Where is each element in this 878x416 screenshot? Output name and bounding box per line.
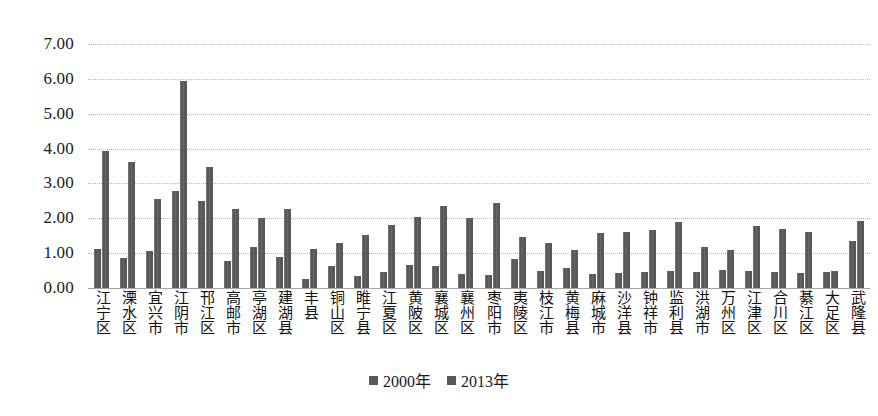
bar [120, 258, 127, 288]
y-tick-label: 4.00 [43, 139, 74, 159]
legend-item[interactable]: 2000年 [369, 368, 431, 392]
gridline-0 [88, 288, 870, 289]
bar-group [172, 44, 187, 288]
legend-label: 2013年 [461, 368, 509, 392]
bar-group [276, 44, 291, 288]
bar [849, 241, 856, 288]
x-tick-label: 枝江市 [536, 290, 552, 335]
y-axis: 0.001.002.003.004.005.006.007.00 [0, 44, 84, 288]
x-tick-label: 江津区 [745, 290, 761, 335]
bar [458, 274, 465, 288]
bar-group [511, 44, 526, 288]
bar [154, 199, 161, 288]
bar [232, 209, 239, 288]
bar-group [380, 44, 395, 288]
bar [745, 271, 752, 288]
bar [414, 217, 421, 288]
x-tick-label: 建湖县 [276, 290, 292, 335]
legend-label: 2000年 [383, 368, 431, 392]
bar-group [224, 44, 239, 288]
x-tick-label: 亭湖区 [249, 290, 265, 335]
legend-item[interactable]: 2013年 [447, 368, 509, 392]
legend-swatch-icon [447, 376, 456, 385]
bar-group [589, 44, 604, 288]
bar-group [250, 44, 265, 288]
bars-layer [88, 44, 870, 288]
bar [641, 272, 648, 288]
bar [284, 209, 291, 288]
bar [224, 261, 231, 288]
bar-group [406, 44, 421, 288]
bar-group [120, 44, 135, 288]
y-tick-label: 3.00 [43, 173, 74, 193]
bar [667, 271, 674, 288]
bar-group [432, 44, 447, 288]
bar [440, 206, 447, 288]
x-tick-label: 监利县 [667, 290, 683, 335]
bar-group [745, 44, 760, 288]
bar-group [485, 44, 500, 288]
x-tick-label: 黄陂区 [406, 290, 422, 335]
bar-group [94, 44, 109, 288]
bar [102, 151, 109, 288]
y-tick-label: 7.00 [43, 34, 74, 54]
bar [310, 249, 317, 288]
x-tick-label: 夷陵区 [510, 290, 526, 335]
bar [198, 201, 205, 288]
bar-group [771, 44, 786, 288]
bar [336, 243, 343, 288]
bar-group [458, 44, 473, 288]
bar [328, 266, 335, 288]
bar-group [537, 44, 552, 288]
bar [485, 275, 492, 288]
x-tick-label: 江阴市 [171, 290, 187, 335]
bar [146, 251, 153, 288]
bar-group [797, 44, 812, 288]
y-tick-label: 5.00 [43, 104, 74, 124]
bar-chart: 0.001.002.003.004.005.006.007.00 江宁区溧水区宜… [0, 0, 878, 416]
bar-group [641, 44, 656, 288]
bar [432, 266, 439, 288]
x-tick-label: 宜兴市 [145, 290, 161, 335]
y-tick-label: 2.00 [43, 208, 74, 228]
bar [258, 218, 265, 288]
bar [805, 232, 812, 288]
plot-area [88, 44, 870, 288]
x-tick-label: 钟祥市 [640, 290, 656, 335]
bar [701, 247, 708, 288]
bar-group [198, 44, 213, 288]
x-tick-label: 大足区 [823, 290, 839, 335]
bar [302, 279, 309, 288]
bar [623, 232, 630, 288]
bar-group [354, 44, 369, 288]
bar-group [719, 44, 734, 288]
chart-legend: 2000年2013年 [0, 368, 878, 392]
bar-group [823, 44, 838, 288]
bar [172, 191, 179, 288]
x-tick-label: 江夏区 [380, 290, 396, 335]
x-tick-label: 溧水区 [119, 290, 135, 335]
bar [771, 272, 778, 288]
x-tick-label: 黄梅县 [562, 290, 578, 335]
bar [857, 221, 864, 288]
bar [753, 226, 760, 288]
x-tick-label: 襄城区 [432, 290, 448, 335]
y-tick-label: 0.00 [43, 278, 74, 298]
bar [693, 272, 700, 288]
bar-group [146, 44, 161, 288]
bar [563, 268, 570, 288]
bar [675, 222, 682, 288]
bar [466, 218, 473, 288]
bar [719, 270, 726, 288]
x-tick-label: 合川区 [771, 290, 787, 335]
bar [779, 229, 786, 288]
bar [406, 265, 413, 288]
x-tick-label: 邗江区 [197, 290, 213, 335]
bar [493, 203, 500, 288]
bar [388, 225, 395, 288]
bar [380, 272, 387, 288]
x-tick-label: 沙洋县 [614, 290, 630, 335]
legend-swatch-icon [369, 376, 378, 385]
bar [206, 167, 213, 288]
bar [180, 81, 187, 288]
